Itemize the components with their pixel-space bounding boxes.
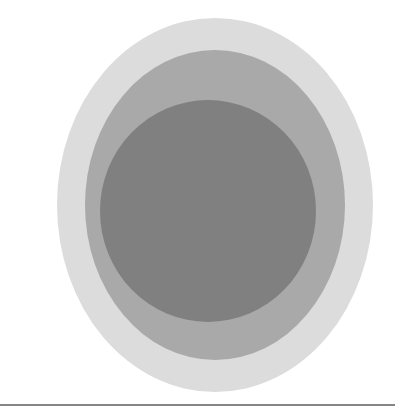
divider-rule — [0, 404, 395, 406]
inner-core-circle — [100, 100, 316, 322]
figure-canvas: Concentric circles diagram — [0, 0, 412, 417]
figure-title: Concentric circles diagram — [0, 0, 1, 1]
